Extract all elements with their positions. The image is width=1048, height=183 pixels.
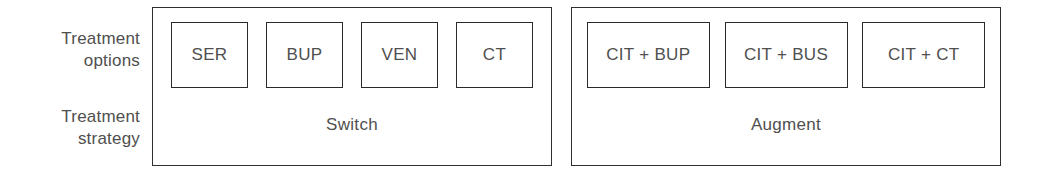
options-row-augment: CIT + BUP CIT + BUS CIT + CT [572, 22, 1000, 88]
strategy-label-switch: Switch [153, 100, 551, 150]
strategy-group-augment: CIT + BUP CIT + BUS CIT + CT Augment [571, 7, 1001, 166]
option-box-ct[interactable]: CT [456, 22, 533, 88]
options-row-switch: SER BUP VEN CT [153, 22, 551, 88]
option-box-bup[interactable]: BUP [266, 22, 343, 88]
treatment-strategy-diagram: Treatment options Treatment strategy SER… [0, 0, 1048, 183]
option-box-cit-bup[interactable]: CIT + BUP [587, 22, 710, 88]
option-box-cit-ct[interactable]: CIT + CT [862, 22, 985, 88]
strategy-group-switch: SER BUP VEN CT Switch [152, 7, 552, 166]
option-box-ven[interactable]: VEN [361, 22, 438, 88]
option-box-ser[interactable]: SER [171, 22, 248, 88]
option-box-cit-bus[interactable]: CIT + BUS [725, 22, 848, 88]
row-label-treatment-strategy: Treatment strategy [0, 106, 140, 150]
row-label-treatment-options: Treatment options [0, 28, 140, 72]
strategy-label-augment: Augment [572, 100, 1000, 150]
